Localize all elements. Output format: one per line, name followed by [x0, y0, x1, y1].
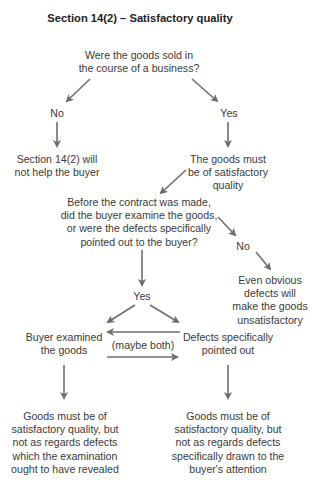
- arrow-to-yes: [192, 79, 217, 101]
- arrow-yes2-left: [108, 305, 135, 322]
- arrow-to-no: [67, 79, 90, 101]
- arrow-to-no-2: [218, 217, 235, 235]
- arrow-to-examine-question: [161, 170, 186, 193]
- arrow-yes2-right: [150, 305, 178, 322]
- arrow-no2-to-obvious: [256, 252, 270, 269]
- flowchart-arrows: [0, 0, 321, 480]
